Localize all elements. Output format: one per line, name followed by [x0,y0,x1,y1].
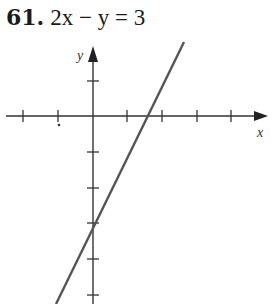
stray-mark [58,124,61,127]
y-axis-arrow-icon [88,46,98,62]
y-axis-label: y [75,48,84,63]
x-axis-arrow-icon [254,111,268,121]
x-axis-label: x [256,125,264,140]
coordinate-graph: x y [0,0,277,304]
equation-line [56,42,184,304]
